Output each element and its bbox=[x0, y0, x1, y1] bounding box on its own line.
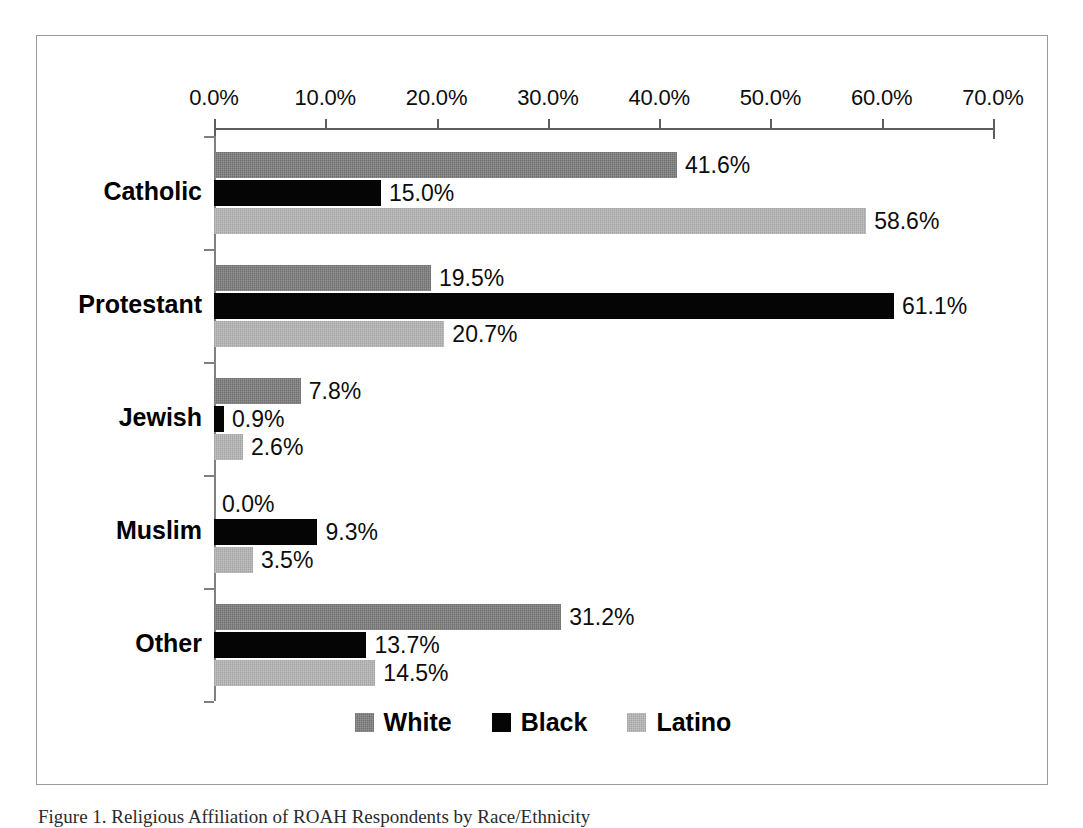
bar[interactable] bbox=[214, 378, 301, 404]
plot-area: 0.0%10.0%20.0%30.0%40.0%50.0%60.0%70.0% … bbox=[37, 36, 1049, 786]
x-tick-label: 20.0% bbox=[392, 85, 482, 111]
x-axis-tick bbox=[437, 119, 439, 128]
bar-value-label: 14.5% bbox=[375, 659, 448, 686]
y-axis-tick bbox=[204, 701, 214, 703]
x-axis-tick bbox=[770, 119, 772, 128]
x-tick-label: 60.0% bbox=[837, 85, 927, 111]
bar-row: 19.5% bbox=[37, 265, 1049, 291]
bar-row: 2.6% bbox=[37, 434, 1049, 460]
x-axis-tick bbox=[548, 119, 550, 128]
bar[interactable] bbox=[214, 547, 253, 573]
x-axis-tick bbox=[325, 119, 327, 128]
bar-value-label: 58.6% bbox=[866, 207, 939, 234]
bar-value-label: 9.3% bbox=[317, 518, 377, 545]
bar-row: 14.5% bbox=[37, 660, 1049, 686]
bar[interactable] bbox=[214, 604, 561, 630]
legend-label: White bbox=[384, 708, 452, 737]
legend-label: Latino bbox=[656, 708, 731, 737]
bar-value-label: 19.5% bbox=[431, 264, 504, 291]
bar[interactable] bbox=[214, 208, 866, 234]
bar-row: 20.7% bbox=[37, 321, 1049, 347]
legend-swatch-white bbox=[355, 713, 374, 732]
x-tick-label: 70.0% bbox=[948, 85, 1038, 111]
bar-row: 7.8% bbox=[37, 378, 1049, 404]
bar-value-label: 0.9% bbox=[224, 405, 284, 432]
legend-entry[interactable]: Latino bbox=[627, 708, 731, 737]
figure-caption: Figure 1. Religious Affiliation of ROAH … bbox=[38, 806, 1038, 828]
bar[interactable] bbox=[214, 152, 677, 178]
bar-row: 0.9% bbox=[37, 406, 1049, 432]
bar-value-label: 15.0% bbox=[381, 179, 454, 206]
x-tick-label: 50.0% bbox=[725, 85, 815, 111]
bar[interactable] bbox=[214, 265, 431, 291]
bar[interactable] bbox=[214, 180, 381, 206]
bar[interactable] bbox=[214, 519, 317, 545]
bar-group: Muslim0.0%9.3%3.5% bbox=[37, 475, 1049, 588]
bar-row: 9.3% bbox=[37, 519, 1049, 545]
bar-value-label: 0.0% bbox=[214, 490, 274, 517]
bar-value-label: 41.6% bbox=[677, 151, 750, 178]
legend-swatch-latino bbox=[627, 713, 646, 732]
bar-group: Catholic41.6%15.0%58.6% bbox=[37, 136, 1049, 249]
x-axis-tick bbox=[993, 119, 995, 128]
bar[interactable] bbox=[214, 321, 444, 347]
bar-value-label: 31.2% bbox=[561, 603, 634, 630]
x-tick-label: 10.0% bbox=[280, 85, 370, 111]
x-axis-line bbox=[214, 128, 993, 130]
bar-group: Jewish7.8%0.9%2.6% bbox=[37, 362, 1049, 475]
x-axis-tick bbox=[659, 119, 661, 128]
bar-value-label: 3.5% bbox=[253, 546, 313, 573]
bar-row: 13.7% bbox=[37, 632, 1049, 658]
x-axis-tick bbox=[214, 119, 216, 128]
bar[interactable] bbox=[214, 293, 894, 319]
bar-value-label: 7.8% bbox=[301, 377, 361, 404]
bar[interactable] bbox=[214, 632, 366, 658]
bar-value-label: 20.7% bbox=[444, 320, 517, 347]
bar-value-label: 2.6% bbox=[243, 433, 303, 460]
bar-value-label: 13.7% bbox=[366, 631, 439, 658]
bar[interactable] bbox=[214, 660, 375, 686]
x-tick-label: 0.0% bbox=[169, 85, 259, 111]
bar-row: 3.5% bbox=[37, 547, 1049, 573]
bar-value-label: 61.1% bbox=[894, 292, 967, 319]
bar-row: 0.0% bbox=[37, 491, 1049, 517]
legend-swatch-black bbox=[492, 713, 511, 732]
chart-frame: 0.0%10.0%20.0%30.0%40.0%50.0%60.0%70.0% … bbox=[36, 35, 1048, 785]
bar-group: Protestant19.5%61.1%20.7% bbox=[37, 249, 1049, 362]
legend-entry[interactable]: Black bbox=[492, 708, 588, 737]
bar-group: Other31.2%13.7%14.5% bbox=[37, 588, 1049, 701]
legend-entry[interactable]: White bbox=[355, 708, 452, 737]
bar-row: 41.6% bbox=[37, 152, 1049, 178]
bar[interactable] bbox=[214, 434, 243, 460]
chart-legend: WhiteBlackLatino bbox=[37, 708, 1049, 737]
x-axis-tick bbox=[882, 119, 884, 128]
bar-row: 31.2% bbox=[37, 604, 1049, 630]
bar-row: 15.0% bbox=[37, 180, 1049, 206]
x-tick-label: 40.0% bbox=[614, 85, 704, 111]
bar-row: 58.6% bbox=[37, 208, 1049, 234]
bar-row: 61.1% bbox=[37, 293, 1049, 319]
bar[interactable] bbox=[214, 406, 224, 432]
legend-label: Black bbox=[521, 708, 588, 737]
x-tick-label: 30.0% bbox=[503, 85, 593, 111]
